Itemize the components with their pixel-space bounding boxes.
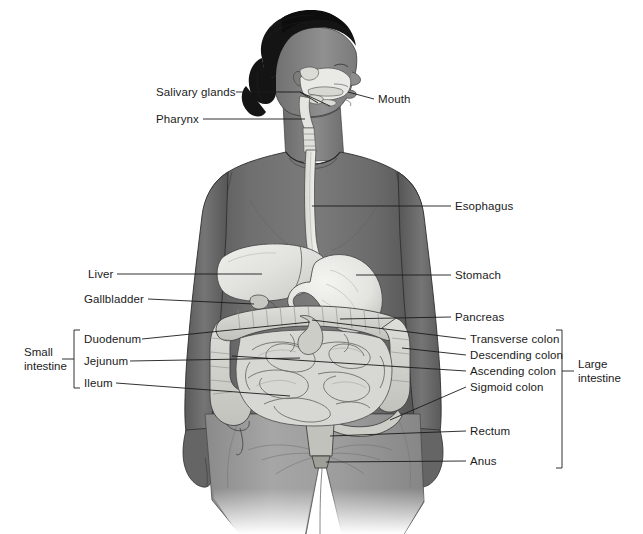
label-ileum-text: Ileum xyxy=(84,377,113,389)
label-stomach: Stomach xyxy=(455,269,501,282)
leader-lines xyxy=(0,0,643,534)
group-label-large-intestine: Large intestine xyxy=(578,357,621,385)
label-jejunum: Jejunum xyxy=(84,355,128,368)
label-liver-text: Liver xyxy=(88,268,113,280)
label-ascending-colon: Ascending colon xyxy=(470,365,556,378)
group-label-small-intestine: Small intestine xyxy=(24,345,67,373)
label-descending-colon: Descending colon xyxy=(470,349,563,362)
label-esophagus: Esophagus xyxy=(455,200,513,213)
label-stomach-text: Stomach xyxy=(455,269,501,281)
label-rectum: Rectum xyxy=(470,425,510,438)
label-transverse-colon: Transverse colon xyxy=(470,333,559,346)
label-salivary-glands-text: Salivary glands xyxy=(156,86,235,98)
label-anus-text: Anus xyxy=(470,455,497,467)
label-pharynx: Pharynx xyxy=(156,113,199,126)
label-jejunum-text: Jejunum xyxy=(84,355,128,367)
label-pancreas: Pancreas xyxy=(455,311,504,324)
label-gallbladder-text: Gallbladder xyxy=(84,293,144,305)
label-duodenum-text: Duodenum xyxy=(84,333,141,345)
label-pancreas-text: Pancreas xyxy=(455,311,504,323)
label-gallbladder: Gallbladder xyxy=(84,293,144,306)
label-pharynx-text: Pharynx xyxy=(156,113,199,125)
label-transverse-colon-text: Transverse colon xyxy=(470,333,559,345)
label-rectum-text: Rectum xyxy=(470,425,510,437)
label-mouth: Mouth xyxy=(378,93,410,106)
label-sigmoid-colon-text: Sigmoid colon xyxy=(470,381,544,393)
label-duodenum: Duodenum xyxy=(84,333,141,346)
label-ileum: Ileum xyxy=(84,377,113,390)
label-sigmoid-colon: Sigmoid colon xyxy=(470,381,544,394)
diagram-canvas: Salivary glands Pharynx Liver Gallbladde… xyxy=(0,0,643,534)
label-descending-colon-text: Descending colon xyxy=(470,349,563,361)
label-ascending-colon-text: Ascending colon xyxy=(470,365,556,377)
large-intestine-line2: intestine xyxy=(578,371,621,385)
label-esophagus-text: Esophagus xyxy=(455,200,513,212)
label-salivary-glands: Salivary glands xyxy=(156,86,235,99)
large-intestine-line1: Large xyxy=(578,357,621,371)
label-anus: Anus xyxy=(470,455,497,468)
small-intestine-line1: Small xyxy=(24,345,67,359)
label-mouth-text: Mouth xyxy=(378,93,410,105)
label-liver: Liver xyxy=(88,268,113,281)
small-intestine-line2: intestine xyxy=(24,359,67,373)
